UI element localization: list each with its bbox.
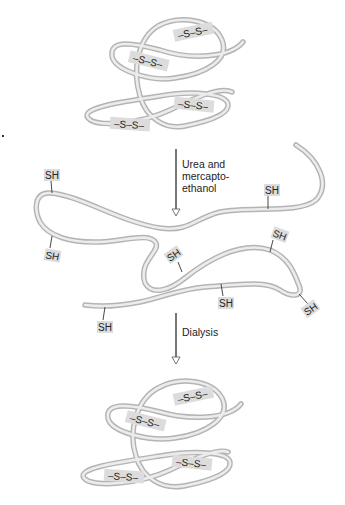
sulfhydryl-group: SH [299, 294, 320, 318]
step-label-line: Dialysis [182, 326, 218, 338]
step-label-line: mercapto- [182, 170, 230, 182]
svg-text:SH: SH [265, 185, 279, 196]
disulfide-bond: –S–S– [173, 97, 214, 113]
step-arrow-renature: Dialysis [172, 313, 218, 364]
stray-dot [2, 135, 4, 137]
step-arrow-denature: Urea and mercapto- ethanol [172, 149, 230, 216]
sulfhydryl-group: SH [270, 226, 290, 252]
svg-text:SH: SH [45, 170, 59, 181]
renatured-protein: –S–S– –S–S– –S–S– –S–S– [83, 381, 241, 487]
step-label-line: ethanol [182, 182, 216, 194]
native-strand [87, 20, 243, 127]
svg-text:SH: SH [45, 249, 61, 262]
native-protein: –S–S– –S–S– –S–S– –S–S– [87, 20, 243, 132]
svg-text:–S–S–: –S–S– [108, 470, 139, 483]
arrow-head-icon [172, 357, 180, 364]
sulfhydryl-group: SH [264, 184, 280, 209]
svg-text:SH: SH [219, 298, 233, 309]
disulfide-bond: –S–S– [173, 22, 215, 42]
svg-text:SH: SH [165, 247, 183, 264]
sulfhydryl-group: SH [44, 169, 60, 193]
svg-text:–S–S–: –S–S– [177, 98, 208, 112]
svg-text:SH: SH [302, 301, 320, 318]
sulfhydryl-group: SH [44, 236, 62, 263]
unfolded-strand [36, 145, 322, 306]
step-label-line: Urea and [182, 158, 225, 170]
svg-text:–S–S–: –S–S– [177, 24, 209, 41]
disulfide-bond: –S–S– [173, 386, 215, 406]
diagram-canvas: –S–S– –S–S– –S–S– –S–S– Urea and mercapt… [0, 0, 345, 505]
sulfhydryl-group: SH [163, 245, 183, 272]
svg-text:SH: SH [98, 322, 112, 333]
denatured-protein: SH SH SH SH SH [36, 145, 322, 333]
arrow-head-icon [172, 209, 180, 216]
sulfhydryl-group: SH [97, 307, 113, 333]
svg-text:–S–S–: –S–S– [114, 118, 145, 131]
svg-text:–S–S–: –S–S– [177, 388, 209, 405]
